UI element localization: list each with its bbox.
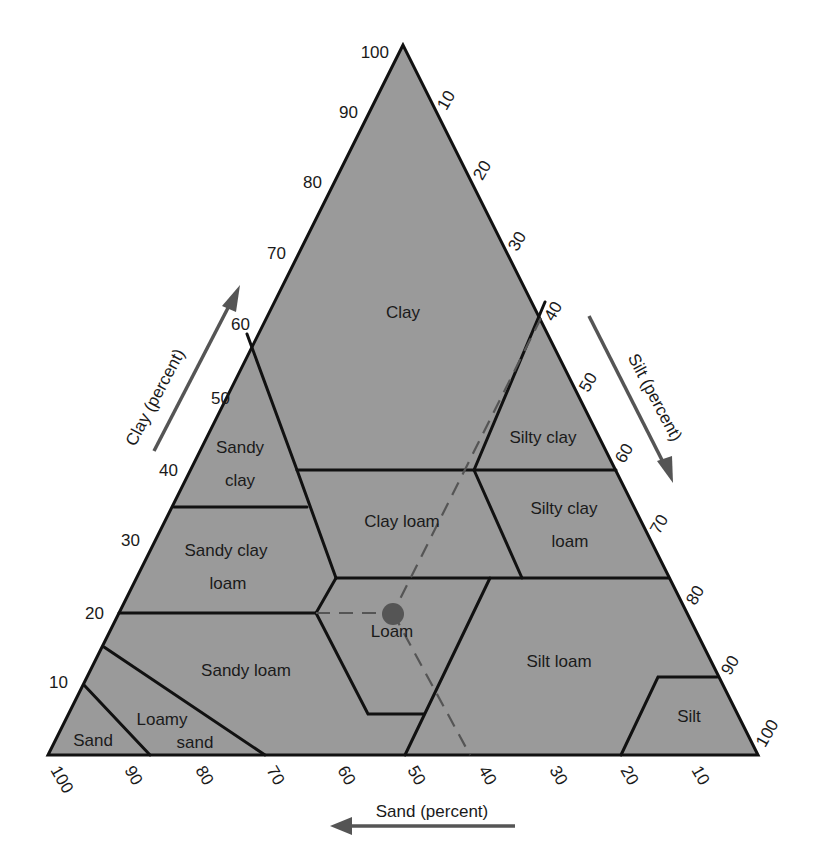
region-label-sandy-clay: clay [225, 471, 256, 490]
silt-arrow-icon [657, 456, 673, 483]
silt-tick: 80 [682, 582, 708, 608]
sand-tick: 80 [192, 763, 218, 789]
region-label-sandy-loam: Sandy loam [201, 661, 291, 680]
clay-tick: 60 [231, 315, 250, 334]
sand-tick: 90 [121, 763, 147, 789]
silt-tick: 10 [433, 87, 459, 113]
region-label-silty-clay-loam: Silty clay [530, 499, 598, 518]
silt-tick: 100 [752, 716, 783, 750]
region-label-sand: Sand [73, 731, 113, 750]
clay-tick: 40 [159, 461, 178, 480]
clay-tick: 100 [361, 43, 389, 62]
region-label-loamy-sand: sand [177, 733, 214, 752]
region-label-silty-clay: Silty clay [509, 428, 577, 447]
sand-tick: 30 [546, 763, 572, 789]
sand-tick: 60 [334, 763, 360, 789]
sand-tick: 50 [404, 763, 430, 789]
silt-tick: 60 [611, 440, 637, 466]
clay-tick: 90 [339, 103, 358, 122]
sand-tick: 100 [47, 763, 78, 797]
clay-arrow-icon [222, 285, 240, 312]
region-label-sandy-clay-loam: loam [210, 574, 247, 593]
clay-tick: 70 [267, 244, 286, 263]
sand-arrow-icon [330, 817, 352, 835]
silt-tick: 70 [646, 511, 672, 537]
soil-texture-triangle: 10 20 30 40 50 60 70 80 90 100 10 20 30 … [0, 0, 832, 868]
region-label-silty-clay-loam: loam [552, 532, 589, 551]
region-label-clay-loam: Clay loam [364, 512, 440, 531]
region-label-loam: Loam [371, 622, 414, 641]
silt-tick: 50 [575, 369, 601, 395]
region-label-silt-loam: Silt loam [526, 652, 591, 671]
silt-tick: 20 [469, 157, 495, 183]
clay-tick: 80 [303, 173, 322, 192]
sand-tick: 20 [617, 763, 643, 789]
clay-tick: 50 [211, 389, 230, 408]
clay-axis-title: Clay (percent) [122, 346, 189, 449]
region-label-loamy-sand: Loamy [136, 710, 188, 729]
clay-tick: 20 [85, 604, 104, 623]
sand-axis-title: Sand (percent) [376, 802, 488, 821]
sand-axis-ticks: 100 90 80 70 60 50 40 30 20 10 [47, 763, 714, 797]
sand-tick: 40 [475, 763, 501, 789]
region-label-silt: Silt [677, 707, 701, 726]
clay-tick: 30 [121, 531, 140, 550]
region-label-sandy-clay-loam: Sandy clay [184, 541, 268, 560]
sand-tick: 70 [263, 763, 289, 789]
silt-tick: 90 [717, 652, 743, 678]
sand-tick: 10 [688, 763, 714, 789]
silt-tick: 30 [504, 228, 530, 254]
silt-axis-title: Silt (percent) [624, 350, 686, 444]
clay-tick: 10 [49, 673, 68, 692]
sand-axis-title-group: Sand (percent) [330, 802, 515, 835]
region-label-sandy-clay: Sandy [216, 438, 265, 457]
region-label-clay: Clay [386, 303, 421, 322]
